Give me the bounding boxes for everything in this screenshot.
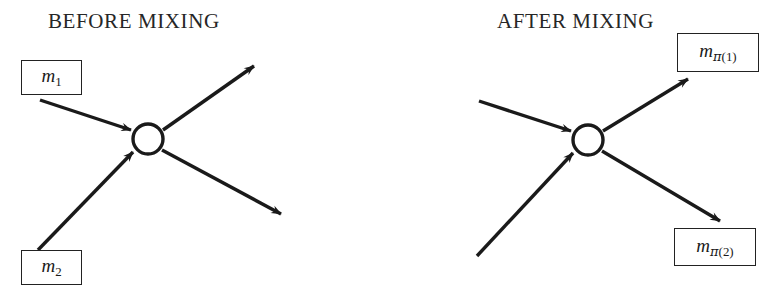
mixing-node-after <box>573 125 603 155</box>
mass-label-mpi2-subscript: π(2) <box>710 243 734 258</box>
mass-label-box-m2: m2 <box>21 250 82 285</box>
pi-glyph-mpi1: π <box>713 49 721 64</box>
arrow-mpi1-outgoing <box>603 79 688 131</box>
arrow-m2-incoming <box>38 152 133 250</box>
panel-title-before-mixing: BEFORE MIXING <box>48 9 220 34</box>
mass-label-m1-base: m <box>41 65 55 86</box>
mass-label-mpi2-text: mπ(2) <box>696 236 733 259</box>
mass-label-box-mpi1: mπ(1) <box>677 33 759 72</box>
mass-label-m1-subscript: 1 <box>55 74 61 89</box>
mass-label-m2-base: m <box>41 255 55 276</box>
arrow-before-outgoing-upper <box>163 66 254 130</box>
mass-label-m2-text: m2 <box>41 256 61 279</box>
mixing-node-before <box>133 124 163 154</box>
mass-label-m2-subscript: 2 <box>55 264 61 279</box>
panel-title-after-mixing: AFTER MIXING <box>497 9 654 34</box>
arrow-mpi2-outgoing <box>602 151 720 221</box>
mass-label-box-m1: m1 <box>21 60 82 95</box>
mass-label-m1-text: m1 <box>41 66 61 89</box>
arrow-m1-incoming <box>40 100 131 130</box>
mass-label-box-mpi2: mπ(2) <box>674 228 756 266</box>
mass-label-mpi2-index: (2) <box>719 243 734 258</box>
mass-label-mpi2-base: m <box>696 235 710 256</box>
arrow-after-incoming-lower <box>477 153 573 256</box>
mass-label-mpi1-subscript: π(1) <box>713 49 737 64</box>
mass-label-mpi1-text: mπ(1) <box>699 41 736 64</box>
arrow-after-incoming-upper <box>479 101 571 131</box>
arrow-before-outgoing-lower <box>162 150 281 214</box>
mass-label-mpi1-index: (1) <box>722 49 737 64</box>
mass-label-mpi1-base: m <box>699 40 713 61</box>
pi-glyph-mpi2: π <box>710 243 718 258</box>
